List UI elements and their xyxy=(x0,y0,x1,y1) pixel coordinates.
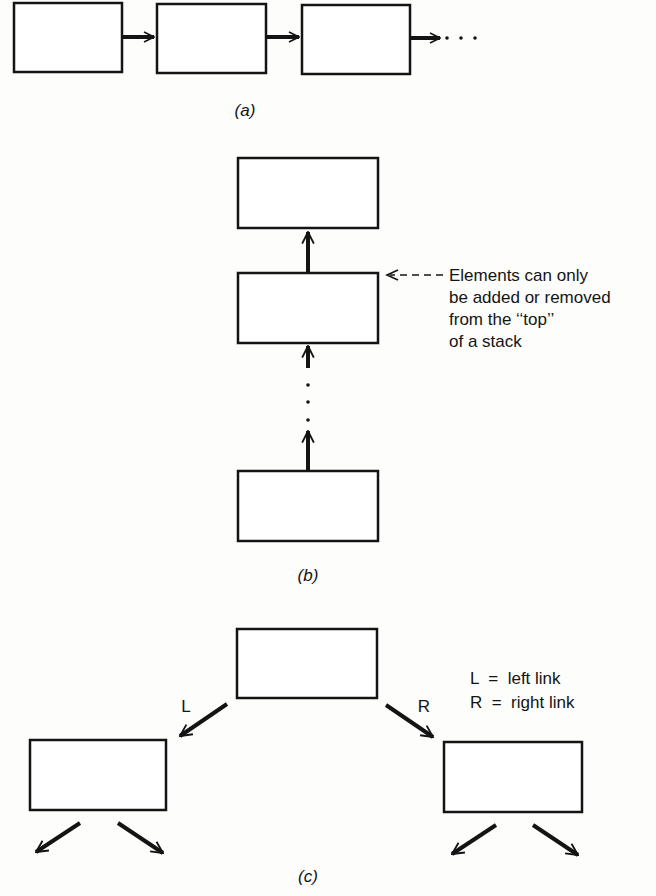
annotation-line-3: from the ‘‘top’’ xyxy=(449,310,554,329)
tree-node-root xyxy=(237,629,377,698)
panel-a-linked-list: (a) xyxy=(14,3,477,120)
list-continuation-ellipsis xyxy=(445,36,477,40)
legend-right-link: R = right link xyxy=(470,693,575,712)
right-link-label: R xyxy=(418,697,430,716)
stack-annotation: Elements can only be added or removed fr… xyxy=(449,266,611,351)
list-node-3 xyxy=(302,5,410,74)
right-node-left-link-arrow xyxy=(452,825,496,854)
right-node-right-link-arrow xyxy=(533,825,578,855)
caption-b: (b) xyxy=(298,566,319,585)
tree-legend: L = left link R = right link xyxy=(470,669,575,712)
stack-node-top xyxy=(238,273,378,343)
stack-continuation-dots xyxy=(306,383,310,422)
list-node-1 xyxy=(14,3,122,72)
tree-node-right xyxy=(444,742,582,812)
annotation-line-2: be added or removed xyxy=(449,288,611,307)
tree-node-left xyxy=(30,740,166,810)
annotation-line-4: of a stack xyxy=(449,332,522,351)
data-structures-figure: (a) Elements can only be added or remove… xyxy=(0,0,656,896)
list-node-2 xyxy=(157,4,266,73)
stack-node-bottom xyxy=(238,471,378,541)
caption-c: (c) xyxy=(298,867,318,886)
legend-left-link: L = left link xyxy=(470,669,561,688)
panel-b-stack: Elements can only be added or removed fr… xyxy=(238,158,611,585)
annotation-line-1: Elements can only xyxy=(449,266,588,285)
panel-c-binary-tree: L R L = left link R = right link (c) xyxy=(30,629,582,886)
left-link-label: L xyxy=(181,697,190,716)
left-node-left-link-arrow xyxy=(36,823,80,852)
caption-a: (a) xyxy=(235,101,256,120)
left-node-right-link-arrow xyxy=(118,823,163,853)
stack-node-top-above xyxy=(238,158,378,228)
